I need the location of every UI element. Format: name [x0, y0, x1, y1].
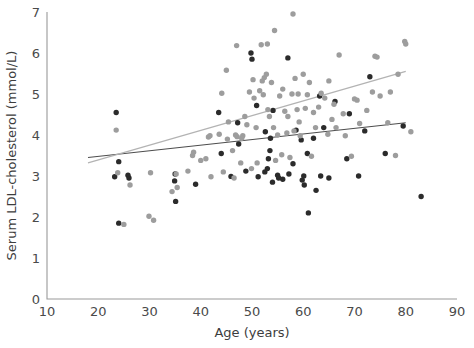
- data-point: [173, 199, 178, 204]
- data-point: [294, 107, 299, 112]
- data-point: [271, 125, 276, 130]
- x-tick-label: 60: [295, 304, 312, 319]
- data-point: [249, 166, 254, 171]
- y-tick-label: 6: [32, 46, 40, 61]
- y-tick-label: 2: [32, 210, 40, 225]
- data-point: [290, 11, 295, 16]
- data-point: [286, 171, 291, 176]
- data-point: [125, 172, 130, 177]
- data-point: [269, 80, 274, 85]
- x-tick-label: 40: [192, 304, 209, 319]
- data-point: [253, 125, 258, 130]
- data-point: [336, 52, 341, 57]
- data-point: [248, 50, 253, 55]
- data-point: [261, 92, 266, 97]
- data-point: [377, 93, 382, 98]
- data-point: [318, 90, 323, 95]
- data-point: [239, 136, 244, 141]
- x-tick-label: 10: [39, 304, 56, 319]
- data-point: [268, 136, 273, 141]
- data-point: [347, 111, 352, 116]
- data-point: [393, 153, 398, 158]
- data-point: [301, 173, 306, 178]
- data-point: [224, 68, 229, 73]
- data-point: [309, 154, 314, 159]
- chart-background: [0, 0, 474, 348]
- data-point: [216, 110, 221, 115]
- data-point: [290, 161, 295, 166]
- data-point: [306, 210, 311, 215]
- data-point: [318, 173, 323, 178]
- data-point: [151, 218, 156, 223]
- x-tick-labels-group: 102030405060708090: [39, 304, 466, 319]
- data-point: [257, 88, 262, 93]
- data-point: [403, 41, 408, 46]
- data-point: [272, 28, 277, 33]
- scatter-chart: 01234567 102030405060708090 Age (years) …: [0, 0, 474, 348]
- data-point: [172, 178, 177, 183]
- data-point: [311, 136, 316, 141]
- data-point: [316, 104, 321, 109]
- data-point: [208, 174, 213, 179]
- data-point: [343, 133, 348, 138]
- y-tick-label: 7: [32, 5, 40, 20]
- data-point: [193, 182, 198, 187]
- data-point: [191, 150, 196, 155]
- data-point: [116, 159, 121, 164]
- x-tick-label: 50: [244, 304, 261, 319]
- x-tick-label: 90: [449, 304, 466, 319]
- data-point: [395, 72, 400, 77]
- data-point: [341, 111, 346, 116]
- data-point: [267, 114, 272, 119]
- data-point: [333, 125, 338, 130]
- x-tick-label: 70: [346, 304, 363, 319]
- data-point: [285, 55, 290, 60]
- data-point: [270, 179, 275, 184]
- data-point: [302, 182, 307, 187]
- data-point: [266, 156, 271, 161]
- data-point: [279, 152, 284, 157]
- x-axis-title: Age (years): [214, 325, 289, 340]
- data-point: [326, 78, 331, 83]
- data-point: [285, 114, 290, 119]
- data-point: [219, 90, 224, 95]
- data-point: [113, 127, 118, 132]
- data-point: [305, 92, 310, 97]
- data-point: [295, 91, 300, 96]
- data-point: [321, 125, 326, 130]
- data-point: [203, 156, 208, 161]
- data-point: [322, 95, 327, 100]
- chart-canvas: 01234567 102030405060708090 Age (years) …: [0, 0, 474, 348]
- data-point: [234, 43, 239, 48]
- data-point: [254, 160, 259, 165]
- data-point: [264, 72, 269, 77]
- data-point: [284, 130, 289, 135]
- y-tick-label: 1: [32, 251, 40, 266]
- data-point: [326, 175, 331, 180]
- data-point: [115, 170, 120, 175]
- data-point: [357, 121, 362, 126]
- data-point: [173, 171, 178, 176]
- data-point: [370, 89, 375, 94]
- data-point: [354, 97, 359, 102]
- x-tick-label: 20: [90, 304, 107, 319]
- data-point: [296, 119, 301, 124]
- y-tick-label: 5: [32, 87, 40, 102]
- data-point: [148, 170, 153, 175]
- x-tick-label: 30: [141, 304, 158, 319]
- data-point: [349, 154, 354, 159]
- data-point: [265, 41, 270, 46]
- data-point: [255, 174, 260, 179]
- data-point: [344, 156, 349, 161]
- data-point: [280, 177, 285, 182]
- data-point: [275, 132, 280, 137]
- data-point: [259, 42, 264, 47]
- data-point: [238, 160, 243, 165]
- data-point: [267, 148, 272, 153]
- data-point: [121, 222, 126, 227]
- data-point: [243, 168, 248, 173]
- y-tick-label: 4: [32, 128, 40, 143]
- data-point: [313, 188, 318, 193]
- data-point: [127, 182, 132, 187]
- data-point: [236, 141, 241, 146]
